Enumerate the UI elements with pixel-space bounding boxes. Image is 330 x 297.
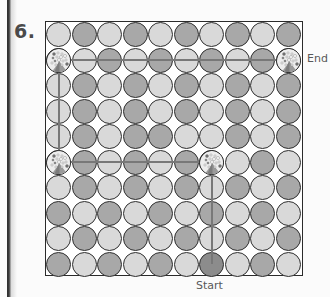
grid-circle-r8-c4[interactable] (123, 201, 148, 226)
grid-circle-r2-c5[interactable] (148, 48, 173, 73)
grid-circle-r6-c5[interactable] (148, 150, 173, 175)
grid-circle-r8-c3[interactable] (97, 201, 122, 226)
grid-circle-r6-c3[interactable] (97, 150, 122, 175)
grid-circle-r1-c4[interactable] (123, 22, 148, 47)
grid-circle-r10-c10[interactable] (276, 252, 301, 277)
grid-circle-r4-c3[interactable] (97, 99, 122, 124)
grid-circle-r2-c6[interactable] (174, 48, 199, 73)
grid-circle-r8-c10[interactable] (276, 201, 301, 226)
grid-circle-r7-c9[interactable] (250, 175, 275, 200)
grid-circle-r3-c9[interactable] (250, 73, 275, 98)
grid-circle-r7-c8[interactable] (225, 175, 250, 200)
grid-circle-r7-c3[interactable] (97, 175, 122, 200)
grid-circle-r6-c2[interactable] (72, 150, 97, 175)
grid-circle-r4-c2[interactable] (72, 99, 97, 124)
grid-circle-r3-c10[interactable] (276, 73, 301, 98)
grid-circle-r9-c8[interactable] (225, 226, 250, 251)
grid-circle-r6-c4[interactable] (123, 150, 148, 175)
grid-circle-r10-c8[interactable] (225, 252, 250, 277)
grid-circle-r8-c9[interactable] (250, 201, 275, 226)
grid-circle-r5-c9[interactable] (250, 124, 275, 149)
grid-circle-r4-c4[interactable] (123, 99, 148, 124)
grid-circle-r9-c10[interactable] (276, 226, 301, 251)
grid-circle-r2-c2[interactable] (72, 48, 97, 73)
grid-circle-r5-c10[interactable] (276, 124, 301, 149)
grid-circle-r5-c6[interactable] (174, 124, 199, 149)
grid-circle-r9-c5[interactable] (148, 226, 173, 251)
grid-circle-r4-c10[interactable] (276, 99, 301, 124)
grid-circle-r2-c3[interactable] (97, 48, 122, 73)
grid-circle-r10-c5[interactable] (148, 252, 173, 277)
grid-circle-r9-c2[interactable] (72, 226, 97, 251)
grid-circle-r3-c7[interactable] (199, 73, 224, 98)
grid-circle-r7-c4[interactable] (123, 175, 148, 200)
grid-circle-r3-c4[interactable] (123, 73, 148, 98)
grid-circle-r4-c5[interactable] (148, 99, 173, 124)
grid-circle-r6-c8[interactable] (225, 150, 250, 175)
grid-circle-r2-c9[interactable] (250, 48, 275, 73)
grid-circle-r7-c1[interactable] (46, 175, 71, 200)
grid-circle-r10-c6[interactable] (174, 252, 199, 277)
grid-circle-r8-c8[interactable] (225, 201, 250, 226)
grid-circle-r2-c8[interactable] (225, 48, 250, 73)
grid-circle-r1-c8[interactable] (225, 22, 250, 47)
start-circle[interactable] (199, 252, 224, 277)
grid-circle-r7-c6[interactable] (174, 175, 199, 200)
grid-circle-r3-c5[interactable] (148, 73, 173, 98)
grid-circle-r1-c2[interactable] (72, 22, 97, 47)
grid-circle-r10-c3[interactable] (97, 252, 122, 277)
grid-circle-r4-c6[interactable] (174, 99, 199, 124)
grid-circle-r7-c7[interactable] (199, 175, 224, 200)
grid-circle-r4-c1[interactable] (46, 99, 71, 124)
grid-circle-r5-c5[interactable] (148, 124, 173, 149)
grid-circle-r2-c10[interactable] (276, 48, 301, 73)
grid-circle-r5-c1[interactable] (46, 124, 71, 149)
grid-circle-r1-c3[interactable] (97, 22, 122, 47)
grid-circle-r6-c7[interactable] (199, 150, 224, 175)
grid-circle-r3-c1[interactable] (46, 73, 71, 98)
grid-circle-r9-c3[interactable] (97, 226, 122, 251)
grid-circle-r6-c10[interactable] (276, 150, 301, 175)
grid-circle-r4-c9[interactable] (250, 99, 275, 124)
grid-circle-r1-c6[interactable] (174, 22, 199, 47)
grid-circle-r5-c2[interactable] (72, 124, 97, 149)
grid-circle-r4-c8[interactable] (225, 99, 250, 124)
grid-circle-r7-c2[interactable] (72, 175, 97, 200)
grid-circle-r2-c1[interactable] (46, 48, 71, 73)
grid-circle-r10-c2[interactable] (72, 252, 97, 277)
grid-circle-r8-c6[interactable] (174, 201, 199, 226)
grid-circle-r1-c9[interactable] (250, 22, 275, 47)
grid-circle-r5-c4[interactable] (123, 124, 148, 149)
grid-circle-r6-c1[interactable] (46, 150, 71, 175)
grid-circle-r1-c10[interactable] (276, 22, 301, 47)
grid-circle-r2-c4[interactable] (123, 48, 148, 73)
grid-circle-r3-c2[interactable] (72, 73, 97, 98)
grid-circle-r3-c6[interactable] (174, 73, 199, 98)
grid-circle-r8-c2[interactable] (72, 201, 97, 226)
grid-circle-r7-c5[interactable] (148, 175, 173, 200)
grid-circle-r5-c7[interactable] (199, 124, 224, 149)
grid-circle-r5-c8[interactable] (225, 124, 250, 149)
grid-circle-r10-c1[interactable] (46, 252, 71, 277)
grid-circle-r9-c9[interactable] (250, 226, 275, 251)
grid-circle-r3-c8[interactable] (225, 73, 250, 98)
grid-circle-r9-c6[interactable] (174, 226, 199, 251)
grid-circle-r10-c4[interactable] (123, 252, 148, 277)
grid-circle-r1-c7[interactable] (199, 22, 224, 47)
grid-circle-r10-c9[interactable] (250, 252, 275, 277)
grid-circle-r7-c10[interactable] (276, 175, 301, 200)
grid-circle-r8-c5[interactable] (148, 201, 173, 226)
grid-circle-r9-c4[interactable] (123, 226, 148, 251)
grid-circle-r1-c1[interactable] (46, 22, 71, 47)
grid-circle-r9-c7[interactable] (199, 226, 224, 251)
grid-circle-r4-c7[interactable] (199, 99, 224, 124)
grid-circle-r5-c3[interactable] (97, 124, 122, 149)
grid-circle-r6-c6[interactable] (174, 150, 199, 175)
grid-circle-r3-c3[interactable] (97, 73, 122, 98)
grid-circle-r9-c1[interactable] (46, 226, 71, 251)
grid-circle-r1-c5[interactable] (148, 22, 173, 47)
grid-circle-r8-c1[interactable] (46, 201, 71, 226)
grid-circle-r8-c7[interactable] (199, 201, 224, 226)
grid-circle-r6-c9[interactable] (250, 150, 275, 175)
grid-circle-r2-c7[interactable] (199, 48, 224, 73)
